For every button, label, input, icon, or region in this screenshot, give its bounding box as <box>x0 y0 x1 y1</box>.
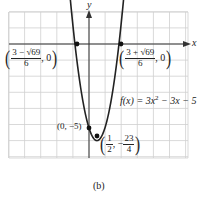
figure-caption: (b) <box>93 180 105 191</box>
vertex-y-denominator: 4 <box>123 145 134 154</box>
x-axis-arrow-icon <box>183 41 191 47</box>
vertex-y-numerator: 23 <box>123 134 134 144</box>
vertex-label: (12, −234) <box>99 133 142 155</box>
right-intercept-tail: , 0 <box>155 52 165 63</box>
x-axis-label: x <box>192 38 196 48</box>
y-intercept-point <box>87 126 92 131</box>
left-intercept-label: (3 − √696, 0) <box>4 47 59 69</box>
right-intercept-denominator: 6 <box>125 59 155 68</box>
right-intercept-label: (3 + √696, 0) <box>118 47 173 69</box>
x-intercept-left-point <box>75 42 80 47</box>
left-intercept-denominator: 6 <box>11 59 41 68</box>
y-axis-label: y <box>87 0 91 10</box>
equation-lhs: f(x) = 3x <box>120 95 155 106</box>
function-equation: f(x) = 3x2 − 3x − 5 <box>120 94 197 106</box>
parabola-curve <box>66 0 127 141</box>
y-intercept-label: (0, −5) <box>57 122 82 131</box>
right-intercept-numerator: 3 + √69 <box>125 48 155 58</box>
vertex-separator: , − <box>113 138 124 149</box>
equation-rhs: − 3x − 5 <box>159 95 197 106</box>
left-intercept-tail: , 0 <box>41 52 51 63</box>
y-axis-arrow-icon <box>86 10 92 18</box>
left-intercept-numerator: 3 − √69 <box>11 48 41 58</box>
